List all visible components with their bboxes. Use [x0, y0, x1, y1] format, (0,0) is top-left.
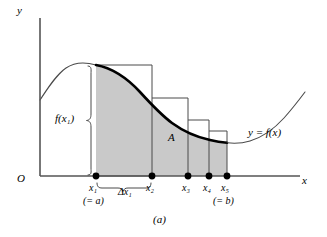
- delta-x1-label: Δx₁: [118, 187, 132, 197]
- partition-dot-x4: [206, 173, 213, 180]
- partition-dot-x1: [93, 173, 100, 180]
- tick-label-x5: x₅: [221, 183, 229, 193]
- partition-dot-x3: [185, 173, 192, 180]
- tick-label-x3: x₃: [182, 183, 190, 193]
- tick-note-x1-equals-a: (= a): [83, 196, 104, 206]
- curve-left-branch: [40, 63, 96, 100]
- x-axis-label: x: [302, 175, 307, 186]
- tick-note-x5-equals-b: (= b): [213, 196, 234, 206]
- origin-label: O: [17, 173, 25, 184]
- curve-equation-label: y = f(x): [248, 127, 281, 138]
- area-label: A: [168, 132, 175, 143]
- partition-dot-x2: [149, 173, 156, 180]
- tick-label-x4: x₄: [203, 183, 211, 193]
- tick-label-x1: x₁: [89, 183, 97, 193]
- y-axis-label: y: [17, 5, 22, 16]
- tick-label-x2: x₂: [146, 183, 154, 193]
- height-label-fx1: f(x₁): [55, 113, 74, 124]
- height-brace: [87, 66, 92, 175]
- figure-canvas: [0, 0, 327, 237]
- partition-dot-x5: [224, 173, 231, 180]
- figure-caption: (a): [153, 214, 166, 225]
- riemann-sum-figure: y x O f(x₁) A y = f(x) x₁ (= a) Δx₁ x₂ x…: [0, 0, 327, 237]
